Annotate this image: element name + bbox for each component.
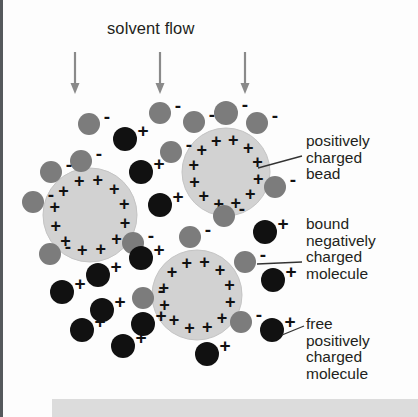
positive-molecule-12: + bbox=[111, 327, 147, 359]
molecule-body bbox=[264, 176, 286, 198]
caption-positively-charged-bead: positively charged bead bbox=[306, 133, 370, 183]
plus-sign: + bbox=[135, 327, 146, 348]
caption-bound-negatively-charged-molecule: bound negatively charged molecule bbox=[306, 216, 376, 282]
positive-molecule-13: + bbox=[260, 311, 296, 343]
positive-molecule-8: + bbox=[261, 261, 297, 293]
plus-sign: + bbox=[167, 262, 178, 282]
minus-sign: - bbox=[48, 184, 54, 205]
plus-sign: + bbox=[217, 308, 228, 328]
negative-molecule-6: - bbox=[70, 143, 102, 173]
plus-sign: + bbox=[211, 131, 222, 151]
molecule-body bbox=[132, 287, 154, 309]
plus-sign: + bbox=[277, 213, 288, 234]
plus-sign: + bbox=[137, 120, 148, 141]
molecule-body bbox=[260, 318, 284, 342]
positive-molecule-7: + bbox=[50, 273, 86, 305]
plus-sign: + bbox=[184, 318, 195, 338]
plus-sign: + bbox=[153, 153, 164, 174]
minus-sign: - bbox=[175, 95, 181, 116]
plus-sign: + bbox=[94, 311, 105, 332]
negative-molecule-2: - bbox=[149, 95, 181, 125]
arrow-head bbox=[71, 83, 80, 94]
molecule-body bbox=[148, 193, 172, 217]
plus-sign: + bbox=[96, 239, 107, 259]
arrow-head bbox=[156, 83, 165, 94]
molecule-body bbox=[111, 334, 135, 358]
molecule-body bbox=[253, 220, 277, 244]
minus-sign: - bbox=[242, 94, 248, 115]
plus-sign: + bbox=[172, 186, 183, 207]
minus-sign: - bbox=[239, 198, 245, 219]
plus-sign: + bbox=[114, 291, 125, 312]
plus-sign: + bbox=[153, 239, 164, 260]
positive-molecule-11: + bbox=[70, 311, 106, 343]
negative-molecule-3: - bbox=[183, 104, 215, 134]
solvent-flow-arrow-1 bbox=[71, 52, 80, 94]
plus-sign: + bbox=[189, 172, 200, 192]
molecule-body bbox=[40, 161, 62, 183]
molecule-body bbox=[70, 150, 92, 172]
plus-sign: + bbox=[74, 171, 85, 191]
bead-lower-middle: ++++++++++++ bbox=[152, 250, 242, 340]
arrow-head bbox=[241, 83, 250, 94]
minus-sign: - bbox=[272, 105, 278, 126]
negative-molecule-4: - bbox=[214, 94, 248, 126]
negative-molecule-14: - bbox=[179, 219, 211, 249]
molecule-body bbox=[50, 280, 74, 304]
figure-canvas: ++++++++++++++++++++++++++++++++++++----… bbox=[0, 0, 418, 417]
negative-molecule-1: - bbox=[78, 106, 110, 136]
molecule-body bbox=[183, 111, 205, 133]
negative-molecule-15: - bbox=[234, 244, 266, 274]
plus-sign: + bbox=[119, 194, 130, 214]
positive-molecule-4: + bbox=[253, 213, 289, 245]
molecule-body bbox=[149, 102, 171, 124]
molecule-body bbox=[213, 205, 235, 227]
plus-sign: + bbox=[228, 130, 239, 150]
plus-sign: + bbox=[219, 335, 230, 356]
minus-sign: - bbox=[65, 236, 71, 257]
solvent-flow-label: solvent flow bbox=[107, 19, 194, 38]
solvent-flow-arrow-3 bbox=[241, 52, 250, 94]
plus-sign: + bbox=[110, 256, 121, 277]
molecule-body bbox=[179, 226, 201, 248]
minus-sign: - bbox=[158, 280, 164, 301]
molecule-body bbox=[234, 251, 256, 273]
plus-sign: + bbox=[198, 186, 209, 206]
plus-sign: + bbox=[182, 253, 193, 273]
plus-sign: + bbox=[77, 240, 88, 260]
molecule-body bbox=[214, 101, 238, 125]
plus-sign: + bbox=[196, 140, 207, 160]
positive-molecule-1: + bbox=[113, 120, 149, 152]
plus-sign: + bbox=[155, 305, 166, 326]
plus-sign: + bbox=[202, 317, 213, 337]
plus-sign: + bbox=[285, 261, 296, 282]
molecule-body bbox=[246, 112, 268, 134]
minus-sign: - bbox=[96, 143, 102, 164]
plus-sign: + bbox=[111, 229, 122, 249]
minus-sign: - bbox=[66, 154, 72, 175]
molecule-body bbox=[261, 268, 285, 292]
positive-molecule-2: + bbox=[129, 153, 165, 185]
positive-molecule-3: + bbox=[148, 186, 184, 218]
minus-sign: - bbox=[290, 169, 296, 190]
bead-upper-right: ++++++++++++ bbox=[182, 128, 270, 216]
plus-sign: + bbox=[58, 181, 69, 201]
minus-sign: - bbox=[104, 106, 110, 127]
molecule-body bbox=[70, 318, 94, 342]
plus-sign: + bbox=[109, 179, 120, 199]
minus-sign: - bbox=[256, 304, 262, 325]
molecule-body bbox=[39, 243, 61, 265]
molecule-body bbox=[230, 311, 252, 333]
plus-sign: + bbox=[284, 311, 295, 332]
molecule-body bbox=[113, 127, 137, 151]
plus-sign: + bbox=[74, 273, 85, 294]
plus-sign: + bbox=[93, 170, 104, 190]
molecule-body bbox=[86, 263, 110, 287]
plus-sign: + bbox=[50, 216, 61, 236]
plus-sign: + bbox=[245, 184, 256, 204]
plus-sign: + bbox=[199, 252, 210, 272]
caption-free-positively-charged-molecule: free positively charged molecule bbox=[306, 316, 370, 382]
solvent-flow-arrow-2 bbox=[156, 52, 165, 94]
molecule-body bbox=[78, 113, 100, 135]
molecule-body bbox=[195, 342, 219, 366]
